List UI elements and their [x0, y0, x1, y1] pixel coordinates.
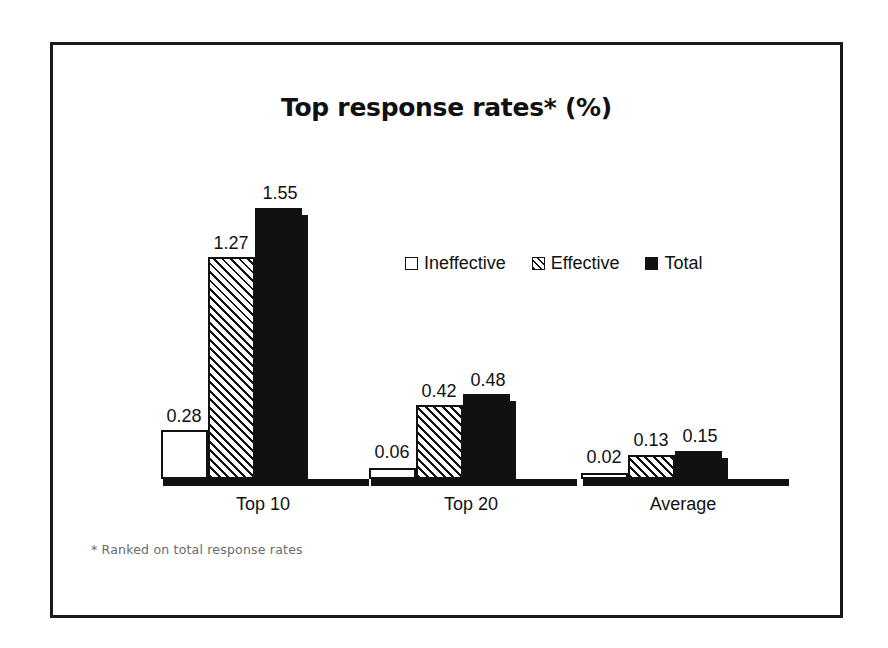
bar-group-top-10: 0.28 1.27 1.55 Top 10: [161, 179, 321, 479]
legend-swatch-hatched-icon: [532, 257, 545, 270]
group-baseline-shadow: [583, 479, 789, 486]
bar-total[interactable]: [463, 394, 510, 479]
bar-value-label: 1.55: [245, 183, 315, 204]
bar-total[interactable]: [675, 451, 722, 479]
bar-effective[interactable]: [416, 405, 463, 479]
legend-item-effective[interactable]: Effective: [532, 253, 620, 274]
legend-label: Total: [664, 253, 702, 274]
bar-ineffective[interactable]: [161, 430, 208, 479]
bar-value-label: 0.48: [453, 370, 523, 391]
chart-legend: Ineffective Effective Total: [405, 253, 702, 274]
bar-effective[interactable]: [208, 257, 255, 479]
category-label-top-20: Top 20: [391, 494, 551, 515]
bar-group-top-20: 0.06 0.42 0.48 Top 20: [369, 179, 529, 479]
group-baseline-shadow: [163, 479, 369, 486]
legend-swatch-black-icon: [645, 257, 658, 270]
bar-group-average: 0.02 0.13 0.15 Average: [581, 179, 741, 479]
legend-label: Ineffective: [424, 253, 506, 274]
legend-item-total[interactable]: Total: [645, 253, 702, 274]
legend-label: Effective: [551, 253, 620, 274]
category-label-average: Average: [603, 494, 763, 515]
chart-footnote: * Ranked on total response rates: [91, 542, 303, 557]
category-label-top-10: Top 10: [183, 494, 343, 515]
slide-frame: Top response rates* (%) 0.28 1.27 1.55 T…: [50, 42, 843, 618]
bar-value-label: 0.15: [665, 426, 735, 447]
chart-plot-area: 0.28 1.27 1.55 Top 10 0.06 0.42: [53, 45, 846, 621]
bar-ineffective[interactable]: [581, 473, 628, 479]
legend-swatch-white-icon: [405, 257, 418, 270]
bar-effective[interactable]: [628, 455, 675, 479]
bar-ineffective[interactable]: [369, 468, 416, 479]
group-baseline-shadow: [371, 479, 577, 486]
legend-item-ineffective[interactable]: Ineffective: [405, 253, 506, 274]
bar-total[interactable]: [255, 208, 302, 479]
